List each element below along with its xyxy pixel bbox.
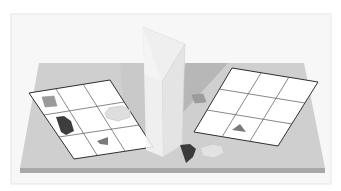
tray-front-edge: [20, 168, 325, 173]
square-piece: [42, 96, 57, 107]
mirror-grid-scene: [0, 0, 341, 191]
mirror-panel: [143, 27, 185, 157]
